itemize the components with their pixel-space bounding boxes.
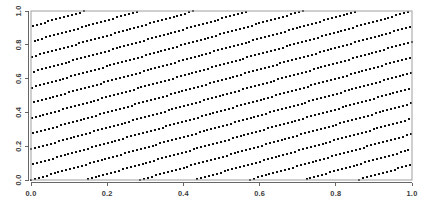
data-point — [239, 166, 241, 168]
data-point — [386, 140, 388, 142]
data-point — [174, 31, 176, 33]
data-point — [80, 57, 82, 59]
data-point — [123, 45, 125, 47]
data-point — [301, 41, 303, 43]
data-point — [130, 166, 132, 168]
data-point — [156, 113, 158, 115]
data-point — [78, 42, 80, 44]
data-point — [261, 175, 263, 177]
data-point — [380, 157, 382, 159]
data-point — [270, 19, 272, 21]
data-point — [404, 89, 406, 91]
data-point — [230, 92, 232, 94]
y-tick-label: 1.0 — [14, 6, 23, 17]
data-point — [46, 113, 48, 115]
data-point — [390, 108, 392, 110]
data-point — [49, 35, 51, 37]
data-point — [35, 55, 37, 57]
data-point — [389, 93, 391, 95]
data-point — [134, 165, 136, 167]
data-point — [322, 112, 324, 114]
data-point — [393, 61, 395, 63]
data-point — [312, 161, 314, 163]
data-point — [384, 18, 386, 20]
data-point — [349, 104, 351, 106]
data-point — [176, 46, 178, 48]
data-point — [133, 27, 135, 29]
y-tick-label: 0.8 — [14, 39, 23, 50]
data-point — [163, 34, 165, 36]
data-point — [98, 68, 100, 70]
data-point — [274, 49, 276, 51]
data-point — [320, 128, 322, 130]
data-point — [180, 44, 182, 46]
data-point — [338, 46, 340, 48]
data-point — [314, 145, 316, 147]
data-point — [43, 52, 45, 54]
data-point — [76, 58, 78, 60]
data-point — [237, 44, 239, 46]
data-point — [391, 46, 393, 48]
data-point — [302, 118, 304, 120]
data-point — [406, 73, 408, 75]
data-point — [69, 30, 71, 32]
data-point — [303, 87, 305, 89]
data-point — [330, 79, 332, 81]
plot-canvas: 0.00.20.40.60.81.0 0.00.20.40.60.81.0 — [0, 0, 426, 212]
data-point — [344, 60, 346, 62]
data-point — [275, 125, 277, 127]
data-point — [200, 146, 202, 148]
data-point — [386, 109, 388, 111]
data-point — [309, 39, 311, 41]
data-point — [262, 21, 264, 23]
data-point — [397, 167, 399, 169]
data-point — [245, 149, 247, 151]
data-point — [382, 172, 384, 174]
data-point — [151, 176, 153, 178]
data-point — [303, 56, 305, 58]
data-point — [181, 90, 183, 92]
data-point — [114, 171, 116, 173]
data-point — [106, 173, 108, 175]
data-point — [253, 178, 255, 180]
data-point — [236, 75, 238, 77]
data-point — [100, 52, 102, 54]
data-point — [187, 104, 189, 106]
data-point — [52, 127, 54, 129]
data-point — [295, 58, 297, 60]
data-point — [167, 171, 169, 173]
data-point — [297, 42, 299, 44]
data-point — [220, 110, 222, 112]
data-point — [235, 167, 237, 169]
data-point — [94, 69, 96, 71]
data-point — [214, 127, 216, 129]
data-point — [155, 36, 157, 38]
data-point — [343, 121, 345, 123]
data-point — [167, 33, 169, 35]
data-point — [48, 159, 50, 161]
data-point — [324, 127, 326, 129]
data-point — [219, 33, 221, 35]
data-point — [251, 25, 253, 27]
data-point — [232, 107, 234, 109]
data-point — [360, 24, 362, 26]
data-point — [104, 51, 106, 53]
data-point — [109, 95, 111, 97]
data-point — [144, 147, 146, 149]
data-point — [277, 140, 279, 142]
data-point — [392, 123, 394, 125]
data-point — [95, 115, 97, 117]
data-point — [54, 142, 56, 144]
data-point — [325, 173, 327, 175]
data-point — [364, 54, 366, 56]
data-point — [158, 128, 160, 130]
data-point — [402, 105, 404, 107]
data-point — [387, 78, 389, 80]
data-point — [216, 111, 218, 113]
data-point — [384, 125, 386, 127]
data-point — [365, 131, 367, 133]
data-point — [372, 21, 374, 23]
data-point — [129, 90, 131, 92]
data-point — [274, 18, 276, 20]
data-point — [164, 80, 166, 82]
